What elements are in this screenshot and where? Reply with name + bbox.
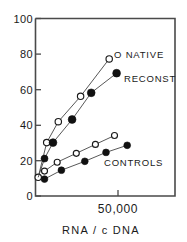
data-point [41,176,48,183]
data-point [106,56,112,62]
data-point [58,167,65,174]
chart-svg: 100 80 60 40 20 0 50,000 RNA / c DNA [0,0,187,242]
series-label-reconst: RECONST [124,73,176,84]
data-point [77,93,83,99]
series-label-native: O NATIVE [114,49,164,60]
data-point [92,141,98,147]
plot-frame [36,19,176,197]
data-point [112,133,118,139]
data-point [55,119,61,125]
y-tick-label-0: 0 [26,190,33,202]
y-tick-label-60: 60 [20,84,33,96]
chart-figure: 100 80 60 40 20 0 50,000 RNA / c DNA [0,0,187,242]
data-point [81,158,88,165]
data-point [42,168,48,174]
data-point [113,69,121,77]
data-point [124,142,131,149]
data-point [54,159,60,165]
x-axis-title: RNA / c DNA [62,224,140,236]
data-point [87,89,95,97]
x-tick-label-50000: 50,000 [98,202,138,216]
y-tick-label-20: 20 [20,155,33,167]
y-tick-label-40: 40 [20,119,33,131]
y-tick-label-100: 100 [13,13,33,25]
data-point [49,139,57,147]
data-point [103,149,110,156]
data-point [41,155,48,162]
data-point [73,150,79,156]
y-axis-tick-labels: 100 80 60 40 20 0 [13,13,33,203]
series-label-controls: CONTROLS [104,157,163,168]
y-tick-label-80: 80 [20,48,33,60]
data-point [68,116,76,124]
